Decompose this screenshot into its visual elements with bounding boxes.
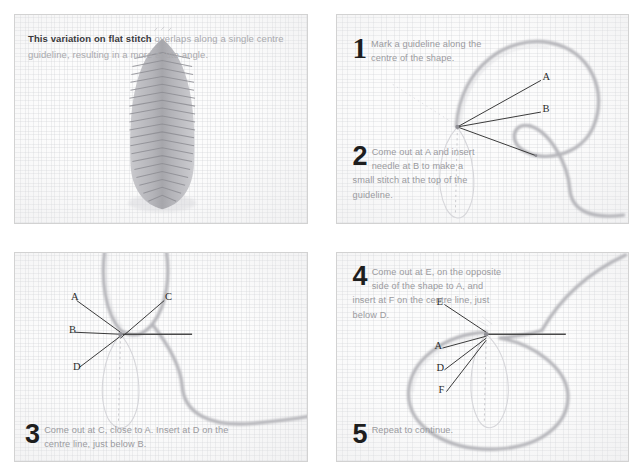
label-F: F xyxy=(439,384,445,395)
panel-step-3: A B C D 3 Come out at C, close to A. Ins… xyxy=(14,252,308,462)
panel-intro: This variation on flat stitch overlaps a… xyxy=(14,14,308,224)
label-A: A xyxy=(435,340,443,351)
step-2-text: Come out at A and insert needle at B to … xyxy=(353,145,479,202)
diagram-sheet: This variation on flat stitch overlaps a… xyxy=(0,0,643,476)
label-C: C xyxy=(165,291,172,302)
step-1-text: Mark a guideline along the centre of the… xyxy=(353,37,498,65)
step-4-number: 4 xyxy=(353,264,368,288)
step-3-text: Come out at C, close to A. Insert at D o… xyxy=(25,423,240,451)
step-5: 5 Repeat to continue. xyxy=(353,423,503,446)
step-3-number: 3 xyxy=(25,422,40,446)
step-2: 2 Come out at A and insert needle at B t… xyxy=(353,145,479,202)
step-1-number: 1 xyxy=(353,36,368,60)
label-A: A xyxy=(71,291,79,302)
step-4-text: Come out at E, on the opposite side of t… xyxy=(353,265,505,322)
intro-paragraph: This variation on flat stitch overlaps a… xyxy=(28,31,286,63)
label-B: B xyxy=(69,324,76,335)
step-5-number: 5 xyxy=(353,422,368,446)
label-B: B xyxy=(543,103,550,114)
label-D: D xyxy=(437,362,445,373)
intro-lead-text: This variation on flat stitch xyxy=(28,33,152,44)
step-3: 3 Come out at C, close to A. Insert at D… xyxy=(25,423,240,451)
label-A: A xyxy=(543,71,551,82)
label-D: D xyxy=(73,361,81,372)
step-4: 4 Come out at E, on the opposite side of… xyxy=(353,265,505,322)
step-5-text: Repeat to continue. xyxy=(353,423,503,437)
step-2-number: 2 xyxy=(353,144,368,168)
panel-step-4-5: E A D F 4 Come out at E, on the opposite… xyxy=(336,252,630,462)
step-1: 1 Mark a guideline along the centre of t… xyxy=(353,37,498,65)
panel-step-1-2: A B 1 Mark a guideline along the centre … xyxy=(336,14,630,224)
